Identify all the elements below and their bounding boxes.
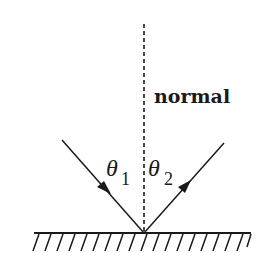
svg-text:θ: θ xyxy=(106,155,118,181)
reflection-diagram: normal θ 1 θ 2 xyxy=(0,0,268,277)
svg-text:θ: θ xyxy=(148,155,160,181)
svg-text:1: 1 xyxy=(121,169,130,189)
theta2-label: θ 2 xyxy=(148,155,173,189)
reflected-arrowhead-icon xyxy=(178,180,191,193)
mirror-hatching xyxy=(33,234,251,251)
normal-label: normal xyxy=(154,85,230,107)
svg-text:2: 2 xyxy=(164,169,173,189)
theta1-label: θ 1 xyxy=(106,155,130,189)
